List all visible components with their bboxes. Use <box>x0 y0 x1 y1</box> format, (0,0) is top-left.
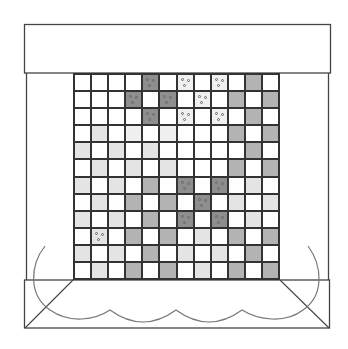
dot-mark-icon <box>101 233 104 236</box>
dot-mark-icon <box>146 112 149 115</box>
grid-cell <box>91 262 108 279</box>
grid-cell <box>142 177 159 194</box>
grid-cell <box>74 177 91 194</box>
grid-cell <box>262 91 279 108</box>
grid-cell <box>108 74 125 91</box>
grid-cell <box>194 194 211 211</box>
dot-mark-icon <box>204 96 207 99</box>
grid-cell <box>108 194 125 211</box>
grid-cell <box>159 142 176 159</box>
grid-cell <box>262 125 279 142</box>
dot-mark-icon <box>183 84 186 87</box>
grid-cell <box>262 108 279 125</box>
dot-mark-icon <box>148 118 151 121</box>
grid-cell <box>211 159 228 176</box>
grid-cell <box>177 245 194 262</box>
grid-cell <box>245 228 262 245</box>
dot-mark-icon <box>148 84 151 87</box>
dot-mark-icon <box>187 113 190 116</box>
grid-cell <box>159 177 176 194</box>
grid-cell <box>91 108 108 125</box>
grid-cell <box>91 228 108 245</box>
grid-cell <box>228 262 245 279</box>
grid-cell <box>125 142 142 159</box>
bottom-band <box>25 280 330 328</box>
dot-mark-icon <box>97 238 100 241</box>
dot-mark-icon <box>215 215 218 218</box>
grid-cell <box>108 159 125 176</box>
grid-cell <box>177 108 194 125</box>
grid-cell <box>74 211 91 228</box>
grid-cell <box>74 159 91 176</box>
grid-cell <box>194 262 211 279</box>
grid-cell <box>91 245 108 262</box>
grid-cell <box>245 74 262 91</box>
dot-mark-icon <box>181 181 184 184</box>
dot-mark-icon <box>217 221 220 224</box>
dot-mark-icon <box>221 113 224 116</box>
dot-mark-icon <box>163 95 166 98</box>
grid-cell <box>211 228 228 245</box>
grid-cell <box>262 177 279 194</box>
grid-cell <box>74 142 91 159</box>
grid-cell <box>159 159 176 176</box>
grid-cell <box>262 262 279 279</box>
grid-cell <box>159 125 176 142</box>
grid-cell <box>159 228 176 245</box>
grid-cell <box>177 125 194 142</box>
dot-mark-icon <box>221 182 224 185</box>
grid-cell <box>91 159 108 176</box>
grid-cell <box>159 74 176 91</box>
grid-cell <box>194 142 211 159</box>
grid-cell <box>245 159 262 176</box>
grid-cell <box>91 194 108 211</box>
dot-mark-icon <box>187 182 190 185</box>
dot-mark-icon <box>200 101 203 104</box>
grid-cell <box>125 177 142 194</box>
grid-cell <box>142 125 159 142</box>
grid-cell <box>177 177 194 194</box>
grid-cell <box>142 159 159 176</box>
dot-mark-icon <box>198 95 201 98</box>
grid-cell <box>91 74 108 91</box>
grid-cell <box>142 245 159 262</box>
grid-cell <box>228 177 245 194</box>
dot-mark-icon <box>169 96 172 99</box>
dot-mark-icon <box>152 113 155 116</box>
grid-cell <box>108 211 125 228</box>
grid-cell <box>125 262 142 279</box>
grid-cell <box>74 228 91 245</box>
grid-cell <box>142 194 159 211</box>
grid-cell <box>262 228 279 245</box>
grid-cell <box>159 245 176 262</box>
dot-mark-icon <box>215 78 218 81</box>
grid-cell <box>108 262 125 279</box>
left-diagonal <box>25 280 73 328</box>
grid-cell <box>211 91 228 108</box>
dot-mark-icon <box>217 84 220 87</box>
grid-cell <box>159 91 176 108</box>
grid-cell <box>91 125 108 142</box>
grid-cell <box>245 91 262 108</box>
grid-cell <box>159 194 176 211</box>
grid-cell <box>194 125 211 142</box>
grid-cell <box>228 228 245 245</box>
grid-cell <box>211 262 228 279</box>
grid-cell <box>125 108 142 125</box>
grid-cell <box>228 74 245 91</box>
grid-cell <box>142 228 159 245</box>
dot-mark-icon <box>204 199 207 202</box>
grid-cell <box>125 228 142 245</box>
dot-mark-icon <box>181 78 184 81</box>
grid-cell <box>108 142 125 159</box>
grid-cell <box>159 211 176 228</box>
grid-cell <box>245 108 262 125</box>
grid-cell <box>211 74 228 91</box>
grid-cell <box>142 108 159 125</box>
quilt-grid <box>73 73 280 280</box>
grid-cell <box>194 91 211 108</box>
grid-cell <box>125 159 142 176</box>
grid-cell <box>91 177 108 194</box>
grid-cell <box>177 262 194 279</box>
grid-cell <box>228 211 245 228</box>
